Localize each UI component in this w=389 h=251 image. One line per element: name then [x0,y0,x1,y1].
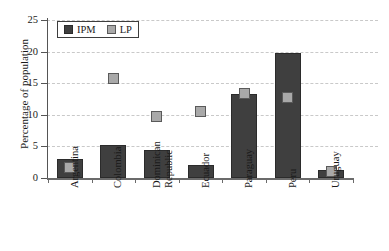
x-tick-mark [135,178,136,183]
x-axis-category-label: Argentina [69,146,81,188]
x-tick-mark [353,178,354,183]
plot-area [47,20,378,178]
legend-entry-ipm: IPM [64,24,96,35]
y-tick-label: 10 [8,110,38,120]
x-tick-mark [92,178,93,183]
y-tick-mark [41,115,47,116]
gridline [47,146,378,147]
y-tick-mark [41,52,47,53]
y-tick-label: 20 [8,47,38,57]
marker-lp [195,106,206,117]
bar-chart: Percentage of population IPM LP 05101520… [0,0,389,251]
y-tick-mark [41,146,47,147]
y-tick-label: 5 [8,141,38,151]
y-tick-label: 25 [8,15,38,25]
x-tick-mark [266,178,267,183]
dark-square-swatch-icon [64,25,73,34]
y-tick-mark [41,20,47,21]
x-axis-category-label: Ecuador [200,153,212,188]
marker-lp [239,88,250,99]
bar-ipm [275,53,301,178]
legend-label-lp: LP [120,24,132,35]
y-tick-mark [41,178,47,179]
legend-label-ipm: IPM [77,24,96,35]
y-tick-mark [41,83,47,84]
x-axis-category-label: Peru [287,169,299,188]
marker-lp [282,92,293,103]
chart-legend: IPM LP [57,21,139,38]
y-tick-label: 15 [8,78,38,88]
gridline [47,115,378,116]
x-tick-mark [48,178,49,183]
x-tick-mark [179,178,180,183]
y-axis-line [47,18,48,180]
legend-entry-lp: LP [107,24,132,35]
gridline [47,83,378,84]
x-axis-category-label: DominicanRepublic [151,141,174,188]
x-tick-mark [222,178,223,183]
marker-lp [108,73,119,84]
x-axis-category-label: Colombia [112,147,124,188]
x-axis-category-label: Paraguay [243,149,255,188]
marker-lp [151,111,162,122]
light-square-swatch-icon [107,25,116,34]
y-tick-label: 0 [8,173,38,183]
x-axis-category-label: Uruguay [330,151,342,188]
gridline [47,52,378,53]
x-tick-mark [309,178,310,183]
